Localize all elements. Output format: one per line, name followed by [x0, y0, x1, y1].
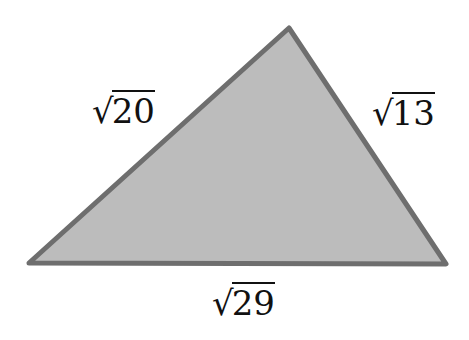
- radicand: 20: [112, 90, 155, 128]
- side-label-bottom: √29: [212, 282, 275, 320]
- radicand: 29: [232, 282, 275, 320]
- triangle-diagram: √20 √13 √29: [0, 0, 469, 340]
- side-label-right: √13: [372, 92, 435, 130]
- radical-symbol: √: [372, 93, 394, 133]
- side-label-left: √20: [92, 90, 155, 128]
- radical-symbol: √: [212, 283, 234, 323]
- radical-symbol: √: [92, 91, 114, 131]
- radicand: 13: [392, 92, 435, 130]
